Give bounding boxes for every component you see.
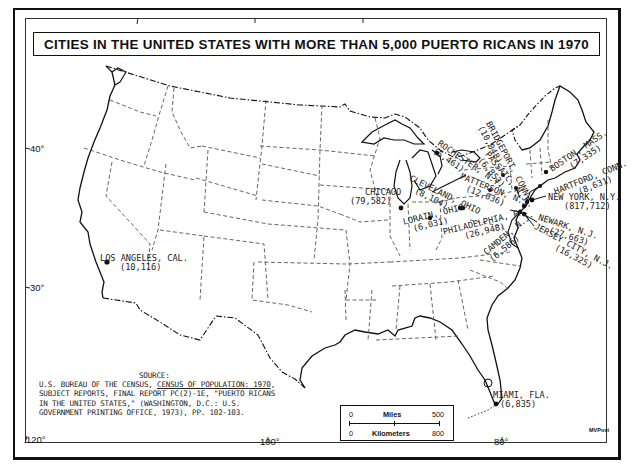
city-label-chicago: CHICAGO (79,582)	[350, 188, 401, 206]
map-credit: MVPost	[589, 427, 609, 433]
latitude-label-30: 30°	[30, 282, 44, 293]
latitude-label-40: 40°	[30, 143, 44, 154]
longitude-label-100: 100°	[260, 436, 280, 447]
source-header: SOURCE:	[139, 371, 170, 380]
longitude-label-80: 80°	[494, 436, 508, 447]
scale-miles-label: Miles	[383, 410, 401, 419]
scale-km-min: 0	[349, 429, 353, 438]
scale-bar	[349, 423, 439, 424]
city-label-los-angeles: LOS ANGELES, CAL. (10,116)	[100, 254, 188, 272]
gulf-coastline	[300, 316, 502, 404]
city-label-new-york: NEW YORK, N.Y. (817,712)	[548, 193, 620, 211]
source-title: CENSUS OF POPULATION: 1970	[157, 380, 271, 389]
scale-miles-min: 0	[349, 410, 353, 419]
scale-legend: 0 Miles 500 0 Kilometers 800	[340, 405, 454, 441]
mexico-border	[103, 298, 305, 388]
canada-border	[106, 66, 520, 158]
scale-km-max: 800	[432, 429, 444, 438]
city-label-miami: MIAMI, FLA. (6,835)	[490, 391, 550, 409]
longitude-label-120: 120°	[26, 434, 46, 445]
scale-miles-max: 500	[432, 410, 444, 419]
source-citation: SOURCE: U.S. BUREAU OF THE CENSUS, CENSU…	[39, 380, 275, 417]
scale-km-label: Kilometers	[372, 429, 410, 438]
